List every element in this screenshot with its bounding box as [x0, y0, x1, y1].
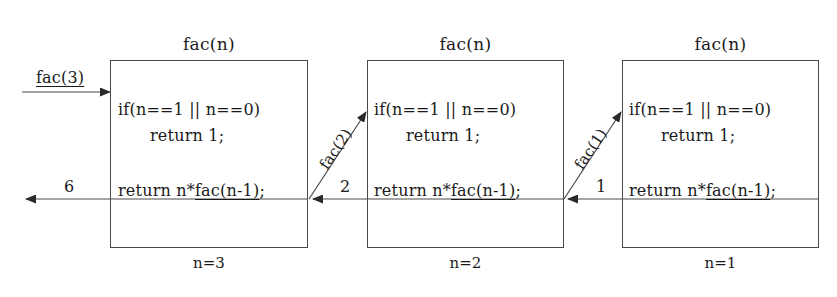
recurse-call: fac(n-1) [706, 181, 770, 200]
recurse-call: fac(n-1) [451, 181, 515, 200]
entry-call-label: fac(3) [36, 68, 84, 87]
call-frame-n3 [110, 60, 308, 248]
call-frame-n2-if-line: if(n==1 || n==0) [374, 100, 516, 119]
return-6-label: 6 [64, 177, 74, 196]
call-frame-n2-footer: n=2 [367, 254, 564, 272]
call-frame-n1 [622, 60, 819, 248]
return-1-label: 1 [596, 177, 606, 196]
call-frame-n3-recursive-return: return n*fac(n-1); [118, 181, 265, 200]
call-fac2-label: fac(2) [316, 125, 356, 173]
call-frame-n1-footer: n=1 [622, 254, 819, 272]
recurse-prefix: return n* [374, 181, 451, 200]
recurse-suffix: ; [259, 181, 265, 200]
recurse-suffix: ; [515, 181, 521, 200]
call-frame-n2 [367, 60, 564, 248]
call-frame-n3-return-one: return 1; [150, 126, 224, 145]
call-frame-n1-return-one: return 1; [661, 126, 735, 145]
call-frame-n1-recursive-return: return n*fac(n-1); [629, 181, 776, 200]
recurse-prefix: return n* [629, 181, 706, 200]
call-frame-n2-header: fac(n) [367, 34, 564, 54]
recurse-prefix: return n* [118, 181, 195, 200]
return-2-label: 2 [340, 177, 350, 196]
call-frame-n3-header: fac(n) [110, 34, 308, 54]
recurse-suffix: ; [770, 181, 776, 200]
recursion-diagram-canvas: fac(n) n=3 if(n==1 || n==0) return 1; re… [0, 0, 837, 297]
recurse-call: fac(n-1) [195, 181, 259, 200]
call-frame-n1-header: fac(n) [622, 34, 819, 54]
call-fac1-label: fac(1) [571, 125, 611, 173]
call-frame-n2-recursive-return: return n*fac(n-1); [374, 181, 521, 200]
call-frame-n2-return-one: return 1; [406, 126, 480, 145]
call-frame-n1-if-line: if(n==1 || n==0) [629, 100, 771, 119]
call-frame-n3-footer: n=3 [110, 254, 308, 272]
call-frame-n3-if-line: if(n==1 || n==0) [118, 100, 260, 119]
